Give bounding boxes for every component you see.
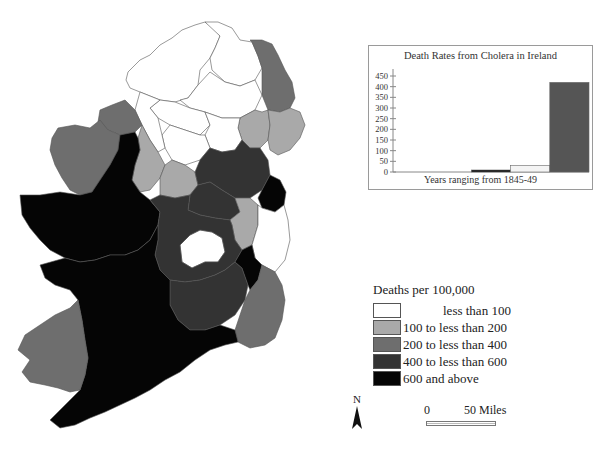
legend-swatch-less-than-100 [373, 303, 401, 318]
legend-label: less than 100 [403, 303, 511, 319]
legend-item: 400 to less than 600 [373, 353, 511, 370]
chart-bar-1848 [511, 166, 550, 172]
legend: Deaths per 100,000 less than 100 100 to … [373, 282, 511, 387]
scale-end-label: 50 Miles [464, 403, 506, 418]
svg-text:400: 400 [375, 82, 388, 92]
svg-text:100: 100 [375, 146, 388, 156]
chart-xlabel: Years ranging from 1845-49 [369, 174, 592, 185]
legend-label: 200 to less than 400 [403, 337, 507, 353]
chart-bar-1847 [471, 170, 510, 172]
legend-item: 600 and above [373, 370, 511, 387]
svg-text:200: 200 [375, 124, 388, 134]
legend-swatch-200-400 [373, 337, 401, 352]
legend-title: Deaths per 100,000 [373, 282, 511, 298]
county-kerry[interactable] [18, 300, 88, 392]
svg-text:150: 150 [375, 135, 388, 145]
ireland-county-map [0, 0, 340, 451]
legend-swatch-100-200 [373, 320, 401, 335]
legend-label: 100 to less than 200 [403, 320, 507, 336]
north-arrow: N [350, 393, 370, 431]
svg-text:250: 250 [375, 114, 388, 124]
chart-plot: 050100150200250300350400450 [369, 46, 594, 191]
legend-swatch-400-600 [373, 354, 401, 369]
legend-item: 200 to less than 400 [373, 336, 511, 353]
scale-start-label: 0 [424, 403, 430, 418]
svg-text:300: 300 [375, 103, 388, 113]
county-down[interactable] [268, 108, 305, 155]
legend-swatch-600-plus [373, 371, 401, 386]
legend-item: less than 100 [373, 302, 511, 319]
chart-bar-1849 [550, 82, 589, 172]
svg-text:350: 350 [375, 92, 388, 102]
scale-bar-graphic [426, 421, 496, 426]
legend-label: 400 to less than 600 [403, 354, 507, 370]
svg-text:50: 50 [380, 156, 389, 166]
county-monaghan[interactable] [205, 112, 242, 152]
scale-bar: 0 50 Miles [424, 403, 584, 433]
legend-item: 100 to less than 200 [373, 319, 511, 336]
north-label: N [353, 393, 361, 405]
legend-label: 600 and above [403, 371, 479, 387]
death-rate-chart: Death Rates from Cholera in Ireland 0501… [368, 45, 593, 190]
svg-text:450: 450 [375, 71, 388, 81]
